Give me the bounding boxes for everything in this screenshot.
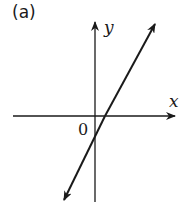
panel-label: (a) [12, 4, 36, 21]
origin-label: 0 [78, 122, 88, 138]
x-axis-label: x [169, 93, 179, 110]
y-axis-label: y [104, 19, 114, 36]
plotted-line [105, 24, 155, 116]
graph-figure: (a) y x 0 [0, 0, 182, 217]
graph-canvas [0, 0, 182, 217]
